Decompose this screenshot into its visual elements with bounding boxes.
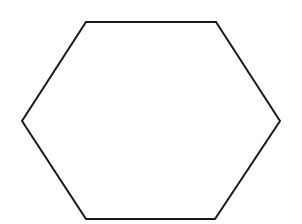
hexagon-shape <box>22 22 280 219</box>
diagram-canvas <box>0 0 302 224</box>
hexagon-diagram <box>0 0 302 224</box>
